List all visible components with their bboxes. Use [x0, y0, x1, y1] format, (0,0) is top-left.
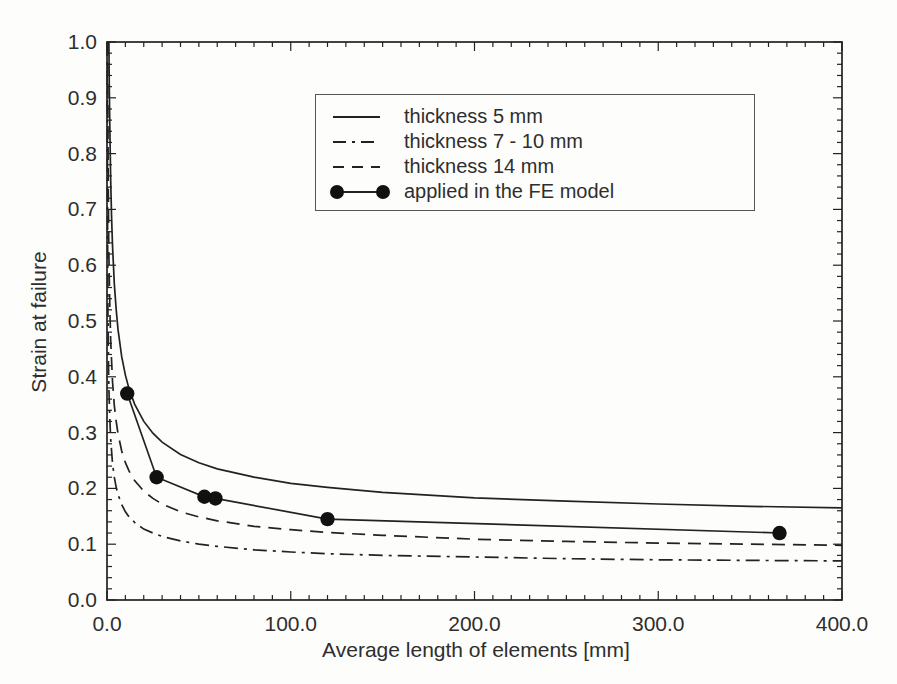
x-tick-label: 300.0 — [632, 612, 685, 635]
dashed-line-sample-icon — [329, 158, 391, 176]
x-tick-label: 400.0 — [816, 612, 869, 635]
solid-line-sample-icon — [329, 108, 391, 126]
legend-row-thickness-5mm: thickness 5 mm — [316, 104, 754, 129]
legend-label: thickness 5 mm — [404, 105, 543, 128]
y-tick-label: 0.4 — [68, 365, 98, 388]
y-tick-label: 0.7 — [68, 197, 97, 220]
legend-box: thickness 5 mm thickness 7 - 10 mm thick… — [315, 94, 755, 211]
y-tick-label: 0.2 — [68, 476, 97, 499]
y-tick-label: 0.0 — [68, 588, 97, 611]
y-tick-label: 0.1 — [68, 532, 97, 555]
y-tick-label: 0.6 — [68, 253, 97, 276]
legend-row-thickness-7-10mm: thickness 7 - 10 mm — [316, 129, 754, 154]
legend-label: applied in the FE model — [404, 180, 614, 203]
x-tick-label: 100.0 — [264, 612, 317, 635]
y-tick-label: 0.5 — [68, 309, 97, 332]
legend-label: thickness 14 mm — [404, 155, 554, 178]
y-tick-label: 0.3 — [68, 421, 97, 444]
y-tick-label: 0.9 — [68, 86, 97, 109]
series-line-applied-in-the-fe-model — [127, 394, 779, 534]
data-point-marker — [320, 512, 334, 526]
data-point-marker — [120, 386, 134, 400]
dash-dot-line-sample-icon — [329, 133, 391, 151]
data-point-marker — [149, 470, 163, 484]
legend-row-thickness-14mm: thickness 14 mm — [316, 154, 754, 179]
x-tick-label: 0.0 — [92, 612, 121, 635]
y-tick-label: 1.0 — [68, 30, 97, 53]
legend-label: thickness 7 - 10 mm — [404, 130, 583, 153]
data-point-marker — [772, 526, 786, 540]
x-axis-label: Average length of elements [mm] — [322, 638, 630, 662]
y-tick-label: 0.8 — [68, 142, 97, 165]
circle-marker-line-sample-icon — [329, 183, 391, 201]
data-point-marker — [208, 491, 222, 505]
y-axis-label: Strain at failure — [27, 251, 51, 392]
strain-at-failure-chart: 0.0100.0200.0300.0400.00.00.10.20.30.40.… — [0, 0, 897, 684]
legend-row-fe-model: applied in the FE model — [316, 179, 754, 204]
x-tick-label: 200.0 — [448, 612, 501, 635]
